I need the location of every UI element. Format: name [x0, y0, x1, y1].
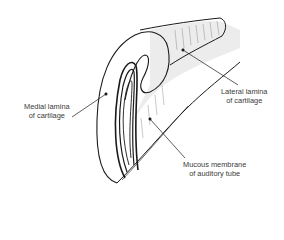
label-lateral-line1: Lateral lamina [221, 87, 267, 96]
label-lateral-lamina: Lateral lamina of cartilage [221, 87, 267, 105]
label-mucous-membrane: Mucous membrane of auditory tube [183, 160, 246, 178]
label-mucous-line2: of auditory tube [183, 169, 246, 178]
tube-lower-edge-inner [122, 106, 188, 180]
label-mucous-line1: Mucous membrane [183, 160, 246, 169]
label-medial-line1: Medial lamina [24, 102, 70, 111]
mucous-membrane-folds [115, 62, 138, 178]
label-medial-lamina: Medial lamina of cartilage [24, 102, 70, 120]
label-medial-line2: of cartilage [24, 111, 70, 120]
label-lateral-line2: of cartilage [221, 96, 267, 105]
